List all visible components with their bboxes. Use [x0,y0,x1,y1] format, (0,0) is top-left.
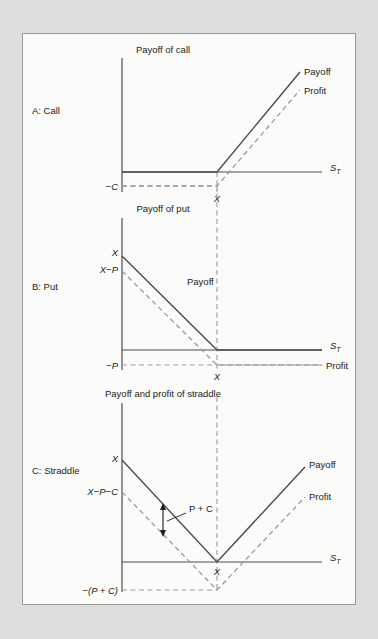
figure-frame [22,33,356,605]
